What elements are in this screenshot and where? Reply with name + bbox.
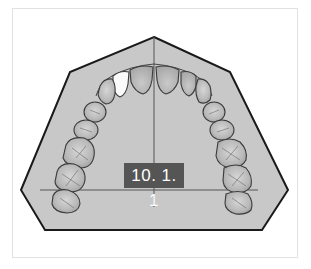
dental-arch-diagram xyxy=(0,0,311,269)
tooth-upper-left-second-premolar xyxy=(210,120,234,140)
tooth-upper-left-second-molar xyxy=(223,165,251,193)
figure-label: 10. 1. 1 xyxy=(124,163,184,188)
tooth-upper-right-second-molar xyxy=(55,164,85,192)
